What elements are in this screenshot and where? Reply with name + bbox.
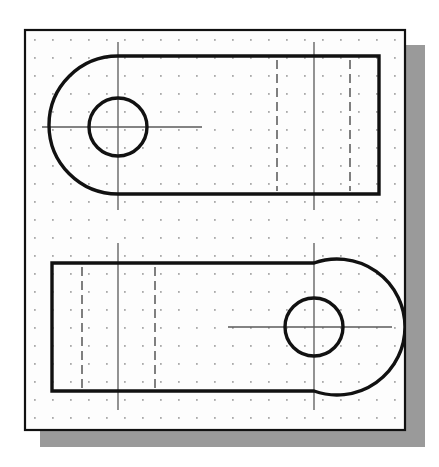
cad-drawing-screenshot — [0, 0, 439, 467]
technical-drawing-canvas[interactable] — [0, 0, 439, 467]
